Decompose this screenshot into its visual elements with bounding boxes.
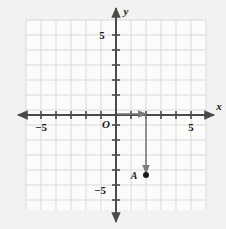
x-tick-label-5: 5 xyxy=(188,121,194,133)
x-axis-label: x xyxy=(215,100,222,112)
point-a-marker xyxy=(143,172,149,178)
y-tick-label-5: 5 xyxy=(99,29,105,41)
point-a-label: A xyxy=(130,170,138,181)
coordinate-plane-figure: A O −5 5 5 −5 x y xyxy=(0,0,226,229)
y-tick-label-negative-5: −5 xyxy=(94,184,106,196)
x-tick-label-negative-5: −5 xyxy=(35,121,47,133)
origin-label: O xyxy=(102,118,110,130)
y-axis-label: y xyxy=(122,5,129,17)
coordinate-plane-svg: A O −5 5 5 −5 x y xyxy=(0,0,226,229)
